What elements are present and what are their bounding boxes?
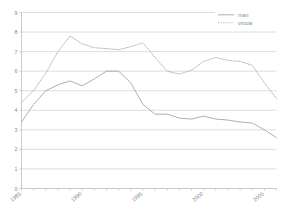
y-tick-label: 6 [15,68,18,74]
y-tick-label: 2 [15,146,18,152]
legend-label-vrouw: vrouw [238,20,252,26]
series-line-man [22,71,277,137]
y-tick-label: 5 [15,88,18,94]
y-tick-label: 9 [15,10,18,16]
legend-label-man: man [238,12,249,18]
line-chart: 0123456789 19851990199520002005 manvrouw [0,0,288,218]
x-tick-label: 2005 [252,191,265,203]
chart-container: 0123456789 19851990199520002005 manvrouw [0,0,288,218]
chart-legend: manvrouw [215,10,276,27]
y-axis-tick-labels: 0123456789 [15,10,18,192]
series-line-vrouw [22,36,277,102]
x-axis-tick-labels: 19851990199520002005 [9,191,265,203]
grid-lines [22,13,277,169]
y-tick-label: 3 [15,127,18,133]
x-axis-ticks [19,13,276,191]
x-tick-label: 2000 [191,191,204,203]
series-lines [22,36,277,138]
y-tick-label: 1 [15,166,18,172]
x-tick-label: 1985 [9,191,22,203]
x-tick-label: 1990 [70,191,83,203]
y-tick-label: 7 [15,49,18,55]
x-tick-label: 1995 [130,191,143,203]
y-tick-label: 8 [15,29,18,35]
y-tick-label: 4 [15,107,18,113]
